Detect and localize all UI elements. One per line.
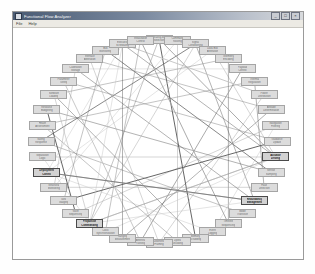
node-label-secondary: Loading <box>49 95 58 98</box>
node-label-secondary: Arbitration <box>84 58 96 61</box>
graph-node[interactable]: PayloadControl <box>229 64 256 73</box>
application-window: Functional Flow Analyzer _ □ × File Help… <box>12 11 304 260</box>
node-label-secondary: Control <box>42 172 51 175</box>
graph-node[interactable]: SeparationLogic <box>29 152 56 161</box>
node-label-secondary: Determination <box>263 109 279 112</box>
menu-bar: File Help <box>13 20 303 28</box>
graph-node[interactable]: InitializationControl <box>127 36 154 45</box>
node-label-secondary: Sequencing <box>221 223 235 226</box>
node-label-secondary: Encoding <box>223 58 234 61</box>
graph-edge <box>90 59 159 244</box>
node-label-secondary: Decoding <box>172 242 183 245</box>
node-label-secondary: Monitoring <box>48 187 60 190</box>
node-label-secondary: Update <box>273 141 281 144</box>
graph-node[interactable]: ParameterTuning <box>50 77 77 86</box>
node-label-secondary: Synchronization <box>96 232 114 235</box>
node-label-secondary: Transition <box>237 213 248 216</box>
node-label-secondary: Selection <box>154 39 165 42</box>
graph-edge <box>90 44 123 224</box>
graph-node[interactable]: GuidanceUpdate <box>264 137 291 146</box>
node-label-secondary: Logic <box>39 157 45 160</box>
node-label-secondary: Response <box>35 141 47 144</box>
node-label-secondary: Measurement <box>115 238 131 241</box>
node-label-secondary: Distribution <box>258 95 271 98</box>
graph-node[interactable]: ModeTransition <box>229 209 256 218</box>
node-label-secondary: Driving <box>271 157 280 160</box>
graph-node[interactable]: PropulsionCommanding <box>76 219 103 228</box>
menu-file[interactable]: File <box>16 21 22 27</box>
graph-node[interactable]: TelemetryEncoding <box>215 54 242 63</box>
graph-node[interactable]: SensorSampling <box>258 168 285 177</box>
graph-node[interactable]: FaultDetection <box>251 183 278 192</box>
title-bar[interactable]: Functional Flow Analyzer _ □ × <box>13 12 303 20</box>
graph-node[interactable]: InterfaceArbitration <box>76 54 103 63</box>
window-controls: _ □ × <box>271 12 300 20</box>
close-button[interactable]: × <box>291 12 300 20</box>
graph-node[interactable]: ActuatorDriving <box>262 152 289 161</box>
node-label-secondary: Management <box>247 201 263 204</box>
node-label-secondary: Regulation <box>248 81 260 84</box>
node-label-secondary: Assessment <box>35 125 49 128</box>
graph-node[interactable]: DeploymentControl <box>33 168 60 177</box>
node-label-secondary: Framing <box>154 243 164 246</box>
graph-node[interactable]: HealthAssessment <box>29 121 56 130</box>
graph-edges <box>13 29 301 259</box>
node-label-secondary: Routing <box>173 40 182 43</box>
node-label-secondary: Sequencing <box>69 213 83 216</box>
menu-help[interactable]: Help <box>28 21 36 27</box>
window-title: Functional Flow Analyzer <box>24 14 271 19</box>
node-label-secondary: Tuning <box>60 81 68 84</box>
graph-node[interactable]: StructuralMonitoring <box>40 183 67 192</box>
node-label-secondary: Gauging <box>59 201 69 204</box>
graph-edge <box>90 44 196 224</box>
node-label-secondary: Arbitration <box>207 50 219 53</box>
node-label-secondary: Logging <box>208 232 217 235</box>
graph-node[interactable]: TankGauging <box>50 196 77 205</box>
graph-node[interactable]: SafingResponse <box>28 137 55 146</box>
graph-node[interactable]: PowerDistribution <box>251 90 278 99</box>
node-label-secondary: Filtering <box>271 125 280 128</box>
page-root: Functional Flow Analyzer _ □ × File Help… <box>0 0 315 274</box>
maximize-button[interactable]: □ <box>281 12 290 20</box>
graph-node[interactable]: CalibrationStorage <box>62 64 89 73</box>
graph-edge <box>54 40 178 187</box>
minimize-button[interactable]: _ <box>271 12 280 20</box>
graph-edge <box>123 110 272 239</box>
graph-edge <box>76 69 255 201</box>
node-label-secondary: Storage <box>71 69 80 72</box>
graph-node[interactable]: RedundancyManagement <box>241 196 268 205</box>
node-label-secondary: Sampling <box>266 172 277 175</box>
graph-node[interactable]: NavigationFiltering <box>262 121 289 130</box>
graph-node[interactable]: ClockSynchronization <box>92 227 119 236</box>
node-label-secondary: Budgeting <box>41 109 53 112</box>
graph-node[interactable]: ValveSequencing <box>62 209 89 218</box>
node-label-secondary: Control <box>238 69 246 72</box>
graph-edge <box>123 44 276 157</box>
graph-node[interactable]: AttitudeDetermination <box>258 105 285 114</box>
node-label-secondary: Scrubbing <box>190 238 202 241</box>
graph-canvas[interactable]: Operating ModeSelectionCommandRoutingSig… <box>13 28 303 259</box>
node-label-secondary: Commanding <box>81 223 98 226</box>
node-label-secondary: Detection <box>259 187 270 190</box>
node-label-secondary: Pointing <box>136 242 145 245</box>
node-label-secondary: Monitoring <box>99 50 111 53</box>
node-label-secondary: Control <box>136 40 144 43</box>
graph-node[interactable]: ResourceBudgeting <box>33 105 60 114</box>
graph-node[interactable]: SoftwareLoading <box>40 90 67 99</box>
graph-node[interactable]: ThermalRegulation <box>241 77 268 86</box>
app-icon <box>15 13 22 20</box>
